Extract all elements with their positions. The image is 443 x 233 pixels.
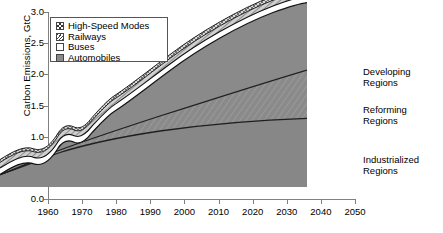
annotation-reforming-regions: Reforming Regions (363, 104, 407, 126)
legend-label-buses: Buses (68, 42, 94, 52)
legend-label-automobiles: Automobiles (68, 53, 120, 63)
legend-item-railways[interactable]: Railways (56, 32, 163, 42)
x-tick-2020 (253, 199, 254, 204)
x-tick-2040 (321, 199, 322, 204)
legend-label-railways: Railways (68, 32, 106, 42)
y-tick-label-0: 0.0 (31, 194, 44, 204)
x-tick-1960 (48, 199, 49, 204)
annotation-reforming-line1: Reforming (363, 104, 407, 115)
legend-swatch-railways (56, 33, 64, 41)
x-tick-label-2050: 2050 (344, 206, 365, 217)
annotation-developing-line1: Developing (363, 66, 411, 77)
annotation-developing-line2: Regions (363, 77, 411, 88)
legend-label-high-speed-modes: High-Speed Modes (68, 21, 149, 31)
x-tick-1970 (82, 199, 83, 204)
x-tick-label-2010: 2010 (208, 206, 229, 217)
x-tick-label-1960: 1960 (37, 206, 58, 217)
annotation-industrialized-line1: Industrialized (363, 154, 419, 165)
x-tick-label-1980: 1980 (106, 206, 127, 217)
x-tick-2050 (355, 199, 356, 204)
x-tick-2030 (287, 199, 288, 204)
legend-swatch-automobiles (56, 54, 64, 62)
x-tick-label-1970: 1970 (72, 206, 93, 217)
x-tick-label-2000: 2000 (174, 206, 195, 217)
x-tick-label-2020: 2020 (242, 206, 263, 217)
x-tick-1990 (150, 199, 151, 204)
annotation-industrialized-regions: Industrialized Regions (363, 154, 419, 176)
annotation-industrialized-line2: Regions (363, 165, 419, 176)
x-tick-label-2040: 2040 (310, 206, 331, 217)
annotation-reforming-line2: Regions (363, 115, 407, 126)
x-tick-2010 (219, 199, 220, 204)
annotation-developing-regions: Developing Regions (363, 66, 411, 88)
chart-legend[interactable]: High-Speed Modes Railways Buses Automobi… (50, 17, 168, 62)
x-tick-2000 (184, 199, 185, 204)
legend-item-automobiles[interactable]: Automobiles (56, 53, 163, 63)
legend-item-high-speed-modes[interactable]: High-Speed Modes (56, 21, 163, 31)
x-tick-label-2030: 2030 (276, 206, 297, 217)
legend-swatch-buses (56, 43, 64, 51)
x-tick-1980 (116, 199, 117, 204)
chart-figure: Carbon Emissions, GtC 0.0 0.5 1.0 1.5 2.… (0, 0, 443, 233)
legend-swatch-high-speed-modes (56, 22, 64, 30)
legend-item-buses[interactable]: Buses (56, 42, 163, 52)
x-axis-line (48, 199, 356, 200)
x-tick-label-1990: 1990 (140, 206, 161, 217)
